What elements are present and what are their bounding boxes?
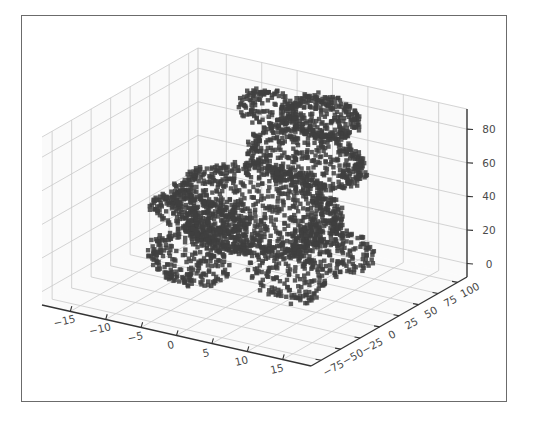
- scatter-point: [302, 116, 306, 120]
- scatter-point: [273, 148, 277, 152]
- scatter-point: [287, 156, 291, 160]
- scatter-point: [233, 247, 237, 251]
- scatter-point: [206, 263, 210, 267]
- scatter-point: [295, 198, 299, 202]
- scatter-point: [370, 253, 374, 257]
- scatter-point: [184, 260, 188, 264]
- scatter-point: [328, 196, 332, 200]
- scatter-point: [146, 254, 150, 258]
- scatter-point: [204, 233, 208, 237]
- scatter-point: [193, 250, 197, 254]
- scatter-point: [358, 263, 362, 267]
- scatter-point: [303, 301, 307, 305]
- scatter-point: [366, 263, 370, 267]
- scatter-point: [326, 219, 330, 223]
- scatter-point: [317, 161, 321, 165]
- scatter-point: [279, 129, 283, 133]
- scatter-point: [260, 181, 264, 185]
- scatter-point: [236, 230, 240, 234]
- scatter-point: [212, 239, 216, 243]
- scatter-point: [309, 118, 313, 122]
- scatter-point: [233, 185, 237, 189]
- scatter-point: [348, 153, 352, 157]
- scatter-point: [162, 270, 166, 274]
- scatter-point: [194, 185, 198, 189]
- scatter-point: [247, 244, 251, 248]
- scatter-point: [324, 153, 328, 157]
- scatter-point: [230, 213, 234, 217]
- scatter-point: [304, 280, 308, 284]
- scatter-point: [172, 264, 176, 268]
- scatter-point: [308, 223, 312, 227]
- scatter-point: [279, 235, 283, 239]
- scatter-point: [293, 265, 297, 269]
- scatter-point: [286, 224, 290, 228]
- scatter-point: [328, 138, 332, 142]
- scatter-point: [274, 217, 278, 221]
- y-tick-label: 50: [422, 304, 439, 321]
- scatter-point: [196, 268, 200, 272]
- scatter-point: [178, 194, 182, 198]
- scatter-point: [187, 176, 191, 180]
- scatter-point: [184, 229, 188, 233]
- scatter-point: [341, 169, 345, 173]
- x-tick-label: −15: [52, 312, 76, 329]
- y-tick-label: 75: [442, 293, 459, 310]
- scatter-point: [210, 246, 214, 250]
- scatter-point: [300, 219, 304, 223]
- scatter-point: [306, 184, 310, 188]
- scatter-point: [212, 232, 216, 236]
- scatter-point: [332, 271, 336, 275]
- scatter-point: [333, 101, 337, 105]
- scatter-point: [170, 274, 174, 278]
- scatter-point: [285, 127, 289, 131]
- scatter-point: [200, 259, 204, 263]
- scatter-point: [305, 155, 309, 159]
- scatter-point: [200, 224, 204, 228]
- scatter-point: [229, 186, 233, 190]
- scatter-point: [205, 246, 209, 250]
- scatter-point: [311, 128, 315, 132]
- scatter-point: [297, 113, 301, 117]
- scatter-point: [259, 93, 263, 97]
- scatter-point: [308, 94, 312, 98]
- scatter-point: [199, 243, 203, 247]
- scatter-point: [286, 196, 290, 200]
- scatter-point: [335, 204, 339, 208]
- scatter-point: [343, 129, 347, 133]
- scatter-point: [294, 123, 298, 127]
- scatter-point: [273, 226, 277, 230]
- scatter-point: [334, 275, 338, 279]
- scatter-point: [202, 172, 206, 176]
- scatter-point: [340, 206, 344, 210]
- scatter-point: [284, 295, 288, 299]
- scatter-point: [154, 237, 158, 241]
- scatter-point: [204, 259, 208, 263]
- scatter-point: [170, 244, 174, 248]
- scatter-point: [218, 229, 222, 233]
- scatter-point: [275, 135, 279, 139]
- scatter-point: [227, 263, 231, 267]
- scatter-point: [281, 185, 285, 189]
- scatter-point: [302, 226, 306, 230]
- scatter-point: [308, 217, 312, 221]
- scatter-point: [266, 194, 270, 198]
- scatter-point: [192, 189, 196, 193]
- scatter-point: [291, 197, 295, 201]
- scatter-point: [252, 243, 256, 247]
- scatter-point: [344, 158, 348, 162]
- scatter-point: [191, 178, 195, 182]
- scatter-point: [326, 204, 330, 208]
- scatter-point: [250, 120, 254, 124]
- scatter-point: [168, 236, 172, 240]
- scatter-point: [338, 105, 342, 109]
- scatter-point: [256, 183, 260, 187]
- scatter-point: [257, 110, 261, 114]
- scatter-point: [189, 183, 193, 187]
- scatter-point: [363, 170, 367, 174]
- scatter-point: [352, 117, 356, 121]
- scatter-point: [259, 198, 263, 202]
- scatter-point: [296, 164, 300, 168]
- scatter-point: [317, 201, 321, 205]
- scatter-point: [324, 188, 328, 192]
